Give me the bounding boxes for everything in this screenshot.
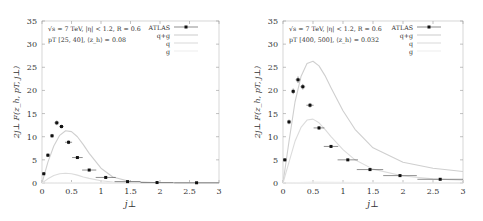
data-point xyxy=(195,181,198,184)
y-tick-label: 0 xyxy=(273,179,278,188)
chart-right: 0510152025303500.511.522.53j⊥2j⊥ F(z_h, … xyxy=(241,0,482,221)
legend-q-left: q xyxy=(140,40,170,47)
legend-q-right: q xyxy=(383,40,413,47)
y-tick-label: 5 xyxy=(32,156,37,165)
x-tick-label: 0.5 xyxy=(307,187,320,196)
legend-qg-left: q+g xyxy=(140,32,170,39)
data-point xyxy=(42,172,45,175)
annotation-energy-right: √s = 7 TeV, |η| < 1.2, R = 0.6 xyxy=(289,25,382,32)
legend-g-left: g xyxy=(140,48,170,55)
y-tick-label: 10 xyxy=(27,133,37,142)
data-point xyxy=(301,85,304,88)
x-tick-label: 1 xyxy=(98,187,103,196)
legend-g-right: g xyxy=(383,48,413,55)
data-point xyxy=(104,176,107,179)
curve-q xyxy=(283,119,463,183)
data-point xyxy=(297,78,300,81)
data-point xyxy=(156,181,159,184)
y-tick-label: 20 xyxy=(27,86,37,95)
x-tick-label: 3 xyxy=(216,187,221,196)
data-point xyxy=(283,158,286,161)
y-tick-label: 20 xyxy=(268,86,278,95)
annotation-pt-right: pT [400, 500], ⟨z_h⟩ = 0.032 xyxy=(289,36,379,43)
data-point xyxy=(330,145,333,148)
y-tick-label: 35 xyxy=(268,17,278,26)
data-point xyxy=(67,141,70,144)
y-tick-label: 30 xyxy=(27,40,37,49)
y-tick-label: 5 xyxy=(273,156,278,165)
data-point xyxy=(55,121,58,124)
y-tick-label: 10 xyxy=(268,133,278,142)
data-point xyxy=(126,180,129,183)
data-point xyxy=(60,125,63,128)
x-tick-label: 2 xyxy=(157,187,162,196)
x-tick-label: 2.5 xyxy=(427,187,440,196)
data-point xyxy=(51,134,54,137)
x-tick-label: 0.5 xyxy=(65,187,78,196)
curve-q-plus-g xyxy=(283,61,463,183)
x-tick-label: 2.5 xyxy=(183,187,196,196)
y-tick-label: 15 xyxy=(27,110,37,119)
data-point xyxy=(318,126,321,129)
plot-area-right: 0510152025303500.511.522.53j⊥2j⊥ F(z_h, … xyxy=(241,0,483,221)
data-point xyxy=(369,168,372,171)
y-tick-label: 25 xyxy=(268,63,278,72)
plot-frame xyxy=(42,21,219,183)
legend-atlas-right: ATLAS xyxy=(383,24,413,31)
data-point xyxy=(46,154,49,157)
x-tick-label: 3 xyxy=(460,187,465,196)
y-tick-label: 15 xyxy=(268,110,278,119)
y-tick-label: 30 xyxy=(268,40,278,49)
legend-marker-atlas xyxy=(428,26,431,29)
data-point xyxy=(439,178,442,181)
y-axis-label: 2j⊥ F(z_h, pT, j⊥) xyxy=(12,66,21,139)
legend-qg-right: q+g xyxy=(383,32,413,39)
plot-area-left: 0510152025303500.511.522.53j⊥2j⊥ F(z_h, … xyxy=(0,0,241,221)
x-axis-label: j⊥ xyxy=(123,199,136,209)
x-tick-label: 0 xyxy=(280,187,285,196)
x-tick-label: 1.5 xyxy=(367,187,380,196)
x-tick-label: 1.5 xyxy=(124,187,137,196)
data-point xyxy=(346,158,349,161)
y-axis-label: 2j⊥ F(z_h, pT, j⊥) xyxy=(253,66,262,139)
data-point xyxy=(399,174,402,177)
curve-q-plus-g xyxy=(42,131,219,183)
data-point xyxy=(88,169,91,172)
data-point xyxy=(76,156,79,159)
data-point xyxy=(288,120,291,123)
plot-frame xyxy=(283,21,463,183)
x-tick-label: 1 xyxy=(340,187,345,196)
legend-marker-atlas xyxy=(185,26,188,29)
data-point xyxy=(309,104,312,107)
data-point xyxy=(292,90,295,93)
annotation-pt-left: pT [25, 40], ⟨z_h⟩ = 0.08 xyxy=(48,36,126,43)
y-tick-label: 35 xyxy=(27,17,37,26)
x-tick-label: 2 xyxy=(400,187,405,196)
y-tick-label: 25 xyxy=(27,63,37,72)
annotation-energy-left: √s = 7 TeV, |η| < 1.2, R = 0.6 xyxy=(48,25,141,32)
legend-atlas-left: ATLAS xyxy=(140,24,170,31)
x-axis-label: j⊥ xyxy=(365,199,378,209)
x-tick-label: 0 xyxy=(39,187,44,196)
chart-left: 0510152025303500.511.522.53j⊥2j⊥ F(z_h, … xyxy=(0,0,241,221)
y-tick-label: 0 xyxy=(32,179,37,188)
